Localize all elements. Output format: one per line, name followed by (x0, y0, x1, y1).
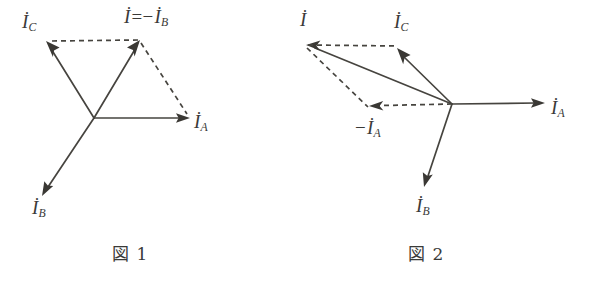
label-neg-ia-fig2: −İA (354, 118, 381, 140)
construction-dash-right-fig1 (141, 43, 187, 114)
label-ib-fig2: İB (416, 196, 430, 218)
vector-ia-line-fig2 (452, 103, 536, 104)
vector-resultant-line-fig1 (94, 49, 136, 119)
vector-ib-arrowhead-fig1 (42, 181, 53, 196)
label-ic-fig1: İC (22, 12, 36, 34)
caption-figure-1: 図 1 (112, 240, 148, 265)
vector-neg-ia-arrowhead-fig2 (369, 101, 383, 111)
label-ia-fig1: İA (194, 112, 208, 134)
figure-root: İC İ=−İB İA İB 図 1 İ İC İA −İA İB 図 2 (0, 0, 594, 281)
label-resultant-fig1: İ=−İB (124, 7, 168, 29)
minus-operator: − (354, 117, 367, 138)
vector-ib-line-fig1 (48, 118, 95, 188)
label-ia-fig2: İA (551, 98, 565, 120)
label-i-fig2: İ (300, 10, 307, 29)
label-ib-fig1: İB (32, 198, 46, 220)
figure-2-vectors (306, 41, 545, 187)
vector-ic-arrowhead-fig1 (46, 41, 60, 57)
equals-minus-operator: =− (131, 6, 155, 27)
vector-ib-line-fig2 (427, 104, 452, 179)
construction-dash-top-fig2 (308, 45, 397, 46)
vector-ic-line-fig1 (52, 50, 95, 119)
label-ic-fig2: İC (394, 12, 408, 34)
vector-ic-line-fig2 (403, 56, 452, 104)
figure-1-vectors (42, 40, 190, 196)
construction-dash-top-fig1 (52, 40, 138, 41)
vector-neg-ia-line-fig2 (378, 104, 452, 106)
vector-diagram-canvas (0, 0, 594, 281)
vector-resultant-arrowhead-fig1 (127, 40, 140, 56)
caption-figure-2: 図 2 (408, 240, 444, 265)
